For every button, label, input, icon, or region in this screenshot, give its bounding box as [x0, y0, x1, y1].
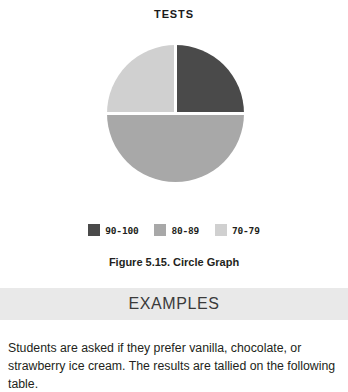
pie-slice-70-79	[107, 45, 176, 114]
figure-circle-graph: TESTS 90-100 80-89 70-79 Figure 5.15. Ci…	[0, 0, 348, 288]
examples-heading: EXAMPLES	[128, 295, 219, 313]
legend-swatch-icon	[88, 224, 100, 236]
legend-item-label: 90-100	[105, 225, 138, 236]
legend-item-label: 80-89	[171, 225, 199, 236]
legend-swatch-icon	[215, 224, 227, 236]
pie-slice-90-100	[176, 45, 245, 114]
legend-item: 90-100	[88, 224, 138, 236]
examples-body-text: Students are asked if they prefer vanill…	[8, 339, 342, 392]
legend-item-label: 70-79	[232, 225, 260, 236]
figure-caption: Figure 5.15. Circle Graph	[0, 256, 348, 268]
examples-banner: EXAMPLES	[0, 288, 348, 320]
legend-item: 70-79	[215, 224, 260, 236]
legend-swatch-icon	[154, 224, 166, 236]
chart-title: TESTS	[0, 8, 348, 20]
chart-legend: 90-100 80-89 70-79	[0, 224, 348, 236]
pie-slice-80-89	[107, 114, 244, 183]
legend-item: 80-89	[154, 224, 199, 236]
pie-chart-svg	[107, 45, 244, 182]
pie-chart	[107, 45, 244, 182]
